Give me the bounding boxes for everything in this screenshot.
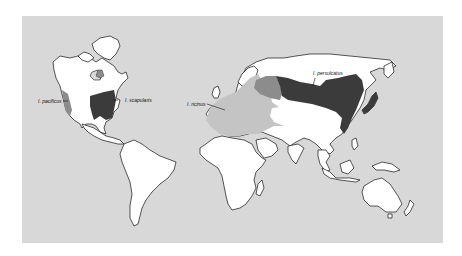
label-i-scapularis: I. scapularis bbox=[125, 97, 152, 103]
label-i-pacificus: I. pacificus bbox=[38, 98, 62, 104]
map-svg bbox=[22, 16, 443, 243]
south-america bbox=[120, 140, 176, 226]
new-guinea bbox=[372, 162, 400, 172]
greenland bbox=[92, 36, 120, 60]
label-i-ricinus: I. ricinus bbox=[187, 101, 206, 107]
africa bbox=[200, 136, 266, 210]
india bbox=[288, 144, 304, 164]
philippines bbox=[352, 138, 358, 150]
tasmania bbox=[388, 214, 392, 218]
australia bbox=[362, 178, 402, 212]
great-britain bbox=[212, 86, 220, 98]
new-zealand bbox=[404, 200, 414, 216]
borneo bbox=[340, 160, 354, 174]
world-map bbox=[22, 16, 443, 243]
madagascar bbox=[256, 180, 264, 196]
label-i-persulcatus: I. persulcatus bbox=[313, 70, 343, 76]
